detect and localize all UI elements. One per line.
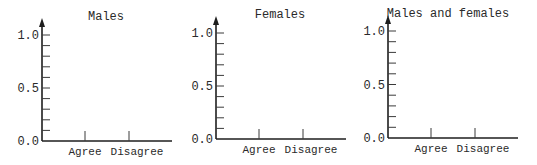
y-ticks [216,33,224,128]
y-ticks [388,31,396,127]
x-label-agree: Agree [68,146,101,158]
chart-title: Females [255,8,305,22]
x-label-disagree: Disagree [285,144,338,156]
x-label-agree: Agree [414,143,447,155]
y-label-mid: 0.5 [191,80,213,94]
chart-panel-males: Males 1.0 0.5 0.0 Agree Disagree [0,0,180,165]
y-label-top: 1.0 [363,25,385,39]
y-label-bottom: 0.0 [17,135,39,149]
y-label-bottom: 0.0 [363,132,385,146]
y-axis-arrow-icon [39,18,45,27]
chart-title: Males and females [387,7,509,21]
x-label-agree: Agree [242,144,275,156]
y-label-top: 1.0 [17,29,39,43]
y-label-mid: 0.5 [363,79,385,93]
chart-title: Males [88,10,124,24]
x-label-disagree: Disagree [457,143,510,155]
y-label-top: 1.0 [191,27,213,41]
x-label-disagree: Disagree [111,146,164,158]
chart-panel-males-and-females: Males and females 1.0 0.5 0.0 Agree Disa… [346,0,537,165]
y-label-bottom: 0.0 [191,133,213,147]
chart-panel-females: Females 1.0 0.5 0.0 Agree Disagree [174,0,354,165]
y-axis-arrow-icon [213,16,219,25]
y-label-mid: 0.5 [17,82,39,96]
y-ticks [42,35,50,130]
